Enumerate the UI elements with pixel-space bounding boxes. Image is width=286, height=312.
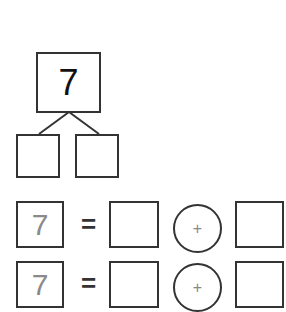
equation-2-equals-sign: = [81,270,96,296]
whole-number: 7 [58,65,78,101]
equation-1-equals-sign: = [81,211,96,237]
equation-2-addend2-box[interactable] [235,261,284,308]
equation-1-total: 7 [32,210,49,240]
equation-1-addend1-box[interactable] [109,201,159,248]
part-box-left[interactable] [16,134,60,178]
equation-2-operator-circle: + [173,263,222,312]
equation-1-addend2-box[interactable] [235,201,284,248]
plus-icon: + [193,221,202,237]
plus-icon: + [193,280,202,296]
equation-2-addend1-box[interactable] [109,261,159,308]
part-box-right[interactable] [75,134,119,178]
whole-box: 7 [36,52,101,113]
equation-1-total-box: 7 [16,201,64,248]
equation-2-total: 7 [32,270,49,300]
equation-1-operator-circle: + [173,204,222,253]
equation-2-total-box: 7 [16,261,64,308]
